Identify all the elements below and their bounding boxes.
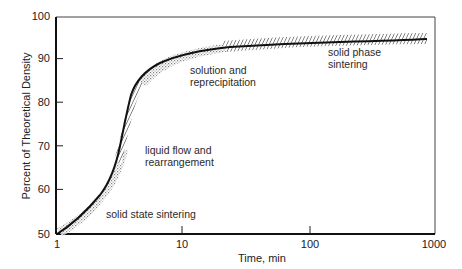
annotation-solid-phase-line2: sintering [328, 58, 368, 70]
band-solid-state [57, 150, 128, 236]
annotation-liquid-flow-line1: liquid flow and [145, 144, 212, 156]
y-tick-80: 80 [38, 96, 50, 108]
y-axis-title: Percent of Theoretical Density [20, 52, 32, 200]
annotation-solution-line2: reprecipitation [190, 76, 256, 88]
x-tick-100: 100 [301, 238, 319, 250]
annotation-liquid-flow-line2: rearrangement [145, 156, 214, 168]
y-axis-ticks [56, 59, 63, 190]
density-chart: 100 90 80 70 60 50 1 10 100 1000 Time, m… [0, 0, 462, 269]
x-axis-title: Time, min [238, 252, 286, 264]
y-tick-100: 100 [32, 10, 50, 22]
x-tick-1000: 1000 [422, 238, 446, 250]
x-axis-ticks [182, 226, 310, 234]
annotation-solid-phase-line1: solid phase [328, 46, 381, 58]
x-tick-1: 1 [54, 238, 60, 250]
x-tick-10: 10 [176, 238, 188, 250]
annotation-solution-line1: solution and [190, 64, 247, 76]
y-tick-70: 70 [38, 140, 50, 152]
x-tick-labels: 1 10 100 1000 [54, 238, 446, 250]
y-tick-50: 50 [38, 228, 50, 240]
y-tick-90: 90 [38, 52, 50, 64]
y-tick-labels: 100 90 80 70 60 50 [32, 10, 50, 240]
y-tick-60: 60 [38, 183, 50, 195]
annotation-solid-state-sintering: solid state sintering [106, 208, 196, 220]
